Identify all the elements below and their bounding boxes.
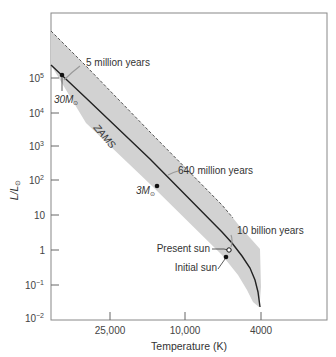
x-axis-title: Temperature (K) bbox=[151, 340, 227, 352]
annotation-5-million-years: 5 million years bbox=[86, 57, 150, 68]
m3-label: 3M⊙ bbox=[136, 185, 155, 197]
y-tick-10: 10 bbox=[34, 210, 46, 221]
present-sun-point bbox=[227, 248, 231, 252]
y-tick-1e4: 104 bbox=[29, 107, 44, 119]
x-tick-25000: 25,000 bbox=[95, 325, 126, 336]
y-tick-1e-1: 10−1 bbox=[25, 279, 44, 291]
x-axis-ticks bbox=[110, 312, 261, 320]
y-tick-1e3: 103 bbox=[29, 140, 44, 152]
y-tick-1e2: 102 bbox=[29, 174, 44, 186]
x-tick-4000: 4000 bbox=[250, 325, 273, 336]
m30-point bbox=[60, 73, 65, 78]
annotation-640-million-years: 640 million years bbox=[178, 165, 253, 176]
present-sun-label: Present sun bbox=[157, 243, 210, 254]
m3-point bbox=[155, 184, 160, 189]
initial-sun-point bbox=[224, 255, 229, 260]
y-axis-title: L/L⊙ bbox=[8, 180, 21, 201]
hr-diagram: 105 104 103 102 10 1 10−1 10−2 25,000 10… bbox=[0, 0, 336, 357]
y-tick-1: 1 bbox=[39, 245, 45, 256]
y-tick-1e5: 105 bbox=[29, 72, 44, 84]
x-tick-10000: 10,000 bbox=[170, 325, 201, 336]
y-tick-1e-2: 10−2 bbox=[25, 312, 44, 324]
annotation-10-billion-years: 10 billion years bbox=[237, 225, 304, 236]
initial-sun-label: Initial sun bbox=[175, 262, 217, 273]
y-axis-ticks bbox=[51, 78, 59, 285]
initial-sun-leader bbox=[218, 259, 225, 269]
